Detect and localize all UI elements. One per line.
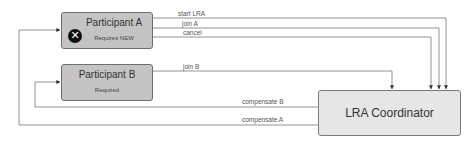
x-circle-icon: ✕ (68, 29, 82, 43)
label-cancel: cancel (183, 29, 202, 36)
participant-a-title: Participant A (62, 17, 152, 28)
lra-coordinator-node[interactable]: LRA Coordinator (318, 90, 461, 136)
label-join-b: join B (183, 63, 199, 70)
label-compensate-b: compensate B (242, 98, 284, 105)
label-start-lra: start LRA (178, 10, 205, 17)
label-join-a: join A (182, 20, 198, 27)
participant-b-node[interactable]: Participant B Required (61, 64, 153, 101)
coordinator-title: LRA Coordinator (319, 106, 460, 120)
participant-a-node[interactable]: Participant A Requires NEW ✕ (61, 12, 153, 49)
label-compensate-a: compensate A (242, 116, 283, 123)
edge-join-b (152, 71, 392, 89)
participant-b-title: Participant B (62, 69, 152, 80)
participant-b-subtitle: Required (62, 87, 152, 93)
